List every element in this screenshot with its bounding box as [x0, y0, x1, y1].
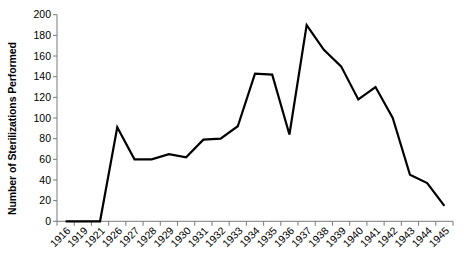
y-tick-label: 60 — [39, 153, 51, 165]
y-tick-label: 40 — [39, 174, 51, 186]
y-tick-label: 100 — [33, 112, 51, 124]
chart-container: Number of Sterilizations Performed 02040… — [0, 0, 464, 263]
y-axis-title-text: Number of Sterilizations Performed — [6, 42, 18, 215]
sterilizations-line-chart: Number of Sterilizations Performed 02040… — [0, 0, 464, 263]
y-tick-label: 120 — [33, 91, 51, 103]
y-tick-label: 80 — [39, 132, 51, 144]
y-tick-label: 20 — [39, 194, 51, 206]
y-tick-label: 180 — [33, 29, 51, 41]
y-tick-label: 0 — [45, 215, 51, 227]
y-tick-label: 200 — [33, 8, 51, 20]
y-axis-title: Number of Sterilizations Performed — [6, 42, 18, 215]
y-tick-label: 140 — [33, 70, 51, 82]
y-tick-label: 160 — [33, 50, 51, 62]
